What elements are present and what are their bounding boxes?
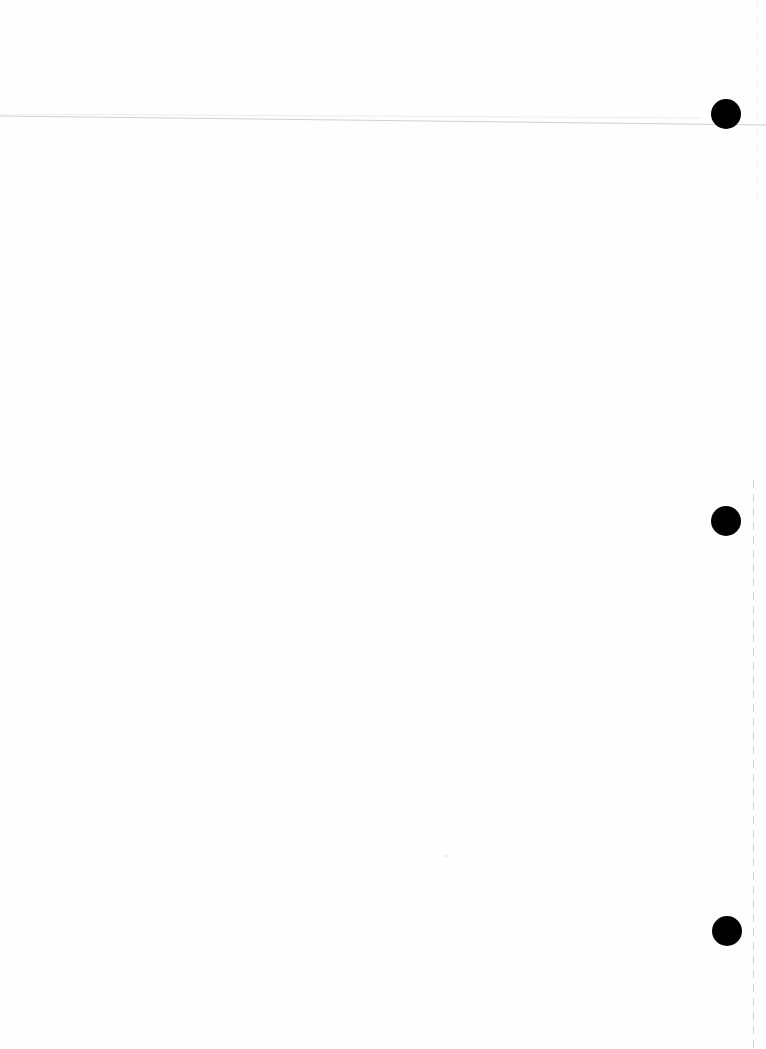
scan-speck	[445, 855, 447, 857]
page-edge-dashes-top	[757, 0, 758, 200]
scanned-page	[0, 0, 766, 1049]
horizontal-rule	[0, 114, 766, 126]
punch-hole-bottom	[712, 916, 742, 946]
punch-hole-top	[711, 99, 741, 129]
punch-hole-middle	[711, 506, 741, 536]
page-edge-dashes	[753, 480, 755, 1049]
